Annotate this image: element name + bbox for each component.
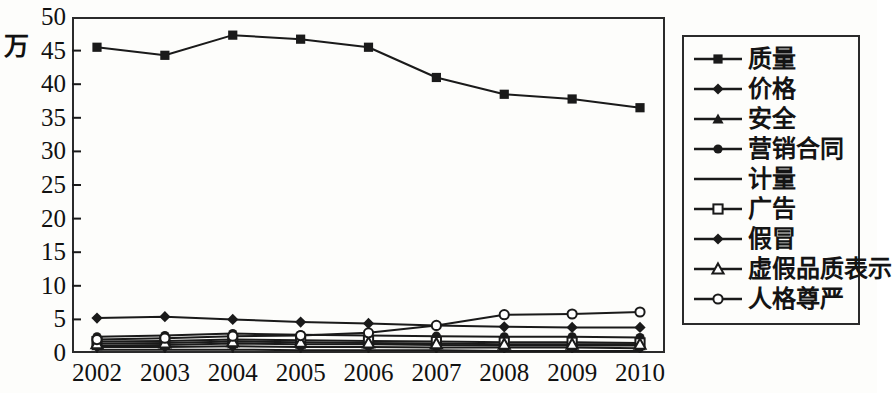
x-tick-label: 2006 [332,358,406,388]
legend-item-label: 虚假品质表示 [748,257,892,281]
data-point-marker-filled-diamond [227,314,238,325]
x-tick-label: 2007 [399,358,473,388]
legend-item[interactable]: 安全 [692,104,882,134]
y-tick-label: 25 [24,172,66,197]
x-axis-tick-labels: 200220032004200520062007200820092010 [0,358,877,392]
data-point-marker-filled-diamond [159,311,170,322]
data-point-marker-open-triangle [712,263,723,273]
y-tick-label: 35 [24,105,66,130]
data-point-marker-filled-diamond [295,316,306,327]
y-tick-label: 10 [24,273,66,298]
data-point-marker-filled-diamond [499,321,510,332]
legend-item-label: 安全 [748,107,796,131]
legend-item[interactable]: 人格尊严 [692,284,882,314]
data-point-marker-open-circle [160,334,169,343]
legend-item-label: 假冒 [748,227,796,251]
data-point-marker-filled-square [160,51,169,60]
legend-item-label: 广告 [748,197,796,221]
data-point-marker-filled-diamond [91,312,102,323]
data-point-marker-filled-circle [713,144,722,153]
data-point-marker-filled-square [364,43,373,52]
legend-marker-filled-square-icon [692,47,744,71]
y-tick-label: 50 [24,4,66,29]
data-point-marker-filled-square [500,90,509,99]
legend-item-label: 计量 [748,167,796,191]
data-point-marker-filled-square [296,35,305,44]
legend-item[interactable]: 营销合同 [692,134,882,164]
legend-item-label: 质量 [748,47,796,71]
legend-item[interactable]: 质量 [692,44,882,74]
y-tick-label: 40 [24,71,66,96]
legend-marker-filled-circle-icon [692,137,744,161]
legend-item[interactable]: 价格 [692,74,882,104]
data-point-marker-filled-diamond [712,233,723,244]
data-point-marker-open-circle [432,321,441,330]
y-tick-label: 20 [24,206,66,231]
legend-item-label: 价格 [748,77,796,101]
data-point-marker-open-circle [228,332,237,341]
data-point-marker-filled-diamond [567,322,578,333]
data-point-marker-open-square [713,204,722,213]
y-axis-tick-labels: 05101520253035404550 [22,0,66,393]
data-point-marker-filled-square [713,54,722,63]
data-point-marker-open-circle [713,294,722,303]
data-point-marker-filled-square [432,73,441,82]
x-tick-label: 2002 [60,358,134,388]
legend-marker-open-square-icon [692,197,744,221]
legend-marker-filled-diamond-icon [692,227,744,251]
legend-marker-none-icon [692,167,744,191]
data-point-marker-open-circle [500,310,509,319]
data-point-marker-open-circle [364,328,373,337]
legend: 质量价格安全营销合同计量广告假冒虚假品质表示人格尊严 [682,35,882,325]
legend-item-label: 营销合同 [748,137,844,161]
plot-series-canvas [72,17,665,353]
legend-item[interactable]: 计量 [692,164,882,194]
data-point-marker-open-circle [635,307,644,316]
legend-item-label: 人格尊严 [748,287,844,311]
x-tick-label: 2010 [603,358,677,388]
data-point-marker-filled-square [568,94,577,103]
data-point-marker-open-circle [296,331,305,340]
x-tick-label: 2008 [467,358,541,388]
y-tick-label: 30 [24,138,66,163]
series-质量 [92,31,644,113]
y-tick-label: 5 [24,306,66,331]
x-tick-label: 2004 [196,358,270,388]
legend-item[interactable]: 假冒 [692,224,882,254]
legend-marker-open-circle-icon [692,287,744,311]
legend-marker-filled-diamond-icon [692,77,744,101]
data-point-marker-filled-square [228,31,237,40]
data-point-marker-filled-square [92,43,101,52]
legend-marker-open-triangle-icon [692,257,744,281]
y-tick-label: 15 [24,239,66,264]
legend-item[interactable]: 虚假品质表示 [692,254,882,284]
data-point-marker-open-circle [568,309,577,318]
data-point-marker-open-circle [92,335,101,344]
legend-marker-filled-triangle-icon [692,107,744,131]
x-tick-label: 2005 [264,358,338,388]
x-tick-label: 2003 [128,358,202,388]
y-tick-label: 45 [24,38,66,63]
data-point-marker-filled-diamond [712,83,723,94]
x-tick-label: 2009 [535,358,609,388]
legend-item[interactable]: 广告 [692,194,882,224]
data-point-marker-filled-square [635,103,644,112]
data-point-marker-filled-diamond [634,322,645,333]
